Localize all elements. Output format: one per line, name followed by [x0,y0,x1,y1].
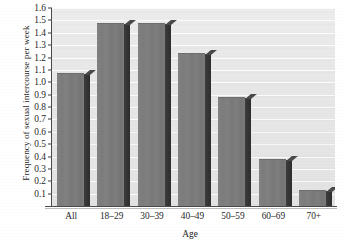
bar-side-face [124,24,130,206]
y-axis-tick-label: 1.0 [20,78,46,87]
y-axis-line [51,8,52,207]
gridline [52,33,335,34]
x-axis-title: Age [0,229,346,239]
x-axis-tick-label: 18–29 [100,210,123,222]
bar [57,74,84,206]
gridline [52,8,335,9]
bar-side-face [286,160,292,206]
y-axis-tick-label: 0.4 [20,152,46,161]
y-axis-tick-labels: 1.61.51.41.31.21.11.00.90.80.70.60.50.40… [20,8,47,206]
bar-top-face [205,50,217,55]
y-axis-tick-label: 0.9 [20,90,46,99]
y-axis-tick-label: 0.3 [20,164,46,173]
scan-band [52,24,335,25]
y-axis-tick-label: 0.5 [20,140,46,149]
y-axis-tick-label: 1.3 [20,41,46,50]
bar-side-face [245,98,251,206]
bar [218,98,245,206]
y-axis-tick-label: 1.6 [20,4,46,13]
y-axis-tick-label: 1.5 [20,16,46,25]
y-axis-tick-label: 0.7 [20,115,46,124]
bar [138,24,165,206]
bar-side-face [205,54,211,206]
y-axis-tick-label: 0.1 [20,189,46,198]
bar [299,191,326,206]
x-axis-tick-label: 60–69 [262,210,285,222]
x-axis-tick-labels: All18–2930–3940–4950–5960–6970+ [52,210,342,226]
bar-front-face [299,190,326,206]
bar [97,24,124,206]
x-axis-tick-label: 50–59 [221,210,244,222]
y-axis-tick-label: 1.4 [20,28,46,37]
bar-front-face [178,53,205,206]
y-axis-tick-label: 1.1 [20,65,46,74]
x-axis-tick-label: All [65,210,77,222]
x-axis-line [45,206,337,207]
plot-area [52,8,335,206]
gridline [52,45,335,46]
x-axis-tick-label: 30–39 [140,210,163,222]
y-axis-tick-label: 0.2 [20,177,46,186]
x-axis-tick-label: 70+ [306,210,321,222]
bar-front-face [138,23,165,206]
x-axis-line-shadow [45,208,337,209]
x-axis-tick-label: 40–49 [181,210,204,222]
bar [178,54,205,206]
y-axis-tick-label: 1.2 [20,53,46,62]
bar-front-face [218,97,245,206]
y-axis-tick-label: 0.6 [20,127,46,136]
gridline [52,20,335,21]
bar-front-face [97,23,124,206]
bar-front-face [57,73,84,206]
bar-side-face [165,24,171,206]
bar-side-face [84,74,90,206]
bar-side-face [326,191,332,206]
bar-front-face [259,159,286,206]
bar [259,160,286,206]
scan-band [52,36,335,37]
bar-chart-figure: Frequency of sexual intercourse per week… [0,0,346,249]
y-axis-tick-label: 0.8 [20,103,46,112]
scan-band [52,12,335,13]
scan-band [52,48,335,49]
